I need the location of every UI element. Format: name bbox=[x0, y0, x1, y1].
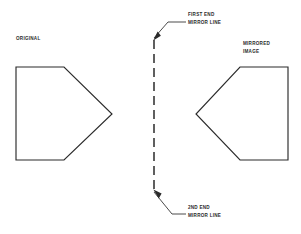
second-end-label-line1: 2ND END bbox=[188, 205, 210, 210]
second-end-label-line2: MIRROR LINE bbox=[188, 213, 221, 218]
original-pentagon bbox=[16, 67, 112, 160]
mirrored-pentagon bbox=[196, 67, 288, 160]
first-end-arrowhead-icon bbox=[153, 32, 161, 41]
diagram-vector-surface: ORIGINAL MIRRORED IMAGE FIRST END MIRROR… bbox=[0, 0, 301, 234]
mirrored-image-label-line1: MIRRORED bbox=[243, 41, 270, 46]
mirrored-image-label-line2: IMAGE bbox=[243, 49, 259, 54]
first-end-label-line1: FIRST END bbox=[188, 12, 215, 17]
first-end-label-line2: MIRROR LINE bbox=[188, 20, 221, 25]
original-label: ORIGINAL bbox=[16, 36, 40, 41]
second-end-arrowhead-icon bbox=[153, 190, 161, 199]
mirror-diagram-canvas: ORIGINAL MIRRORED IMAGE FIRST END MIRROR… bbox=[0, 0, 301, 234]
